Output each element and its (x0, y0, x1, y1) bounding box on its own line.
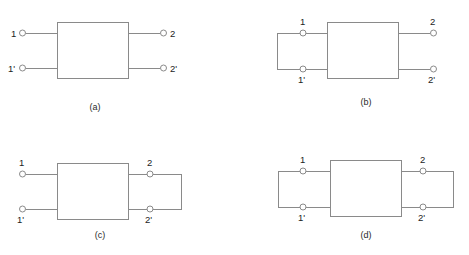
panel-d-label-2prime: 2' (418, 212, 425, 223)
panel-c: 1 1' 2 2' (c) (17, 157, 181, 240)
panel-d-network-box (331, 161, 402, 217)
panel-a-terminal-2prime (161, 65, 167, 71)
panel-d-label-2: 2 (420, 154, 425, 165)
panel-a: 1 1' 2 2' (a) (8, 23, 177, 113)
panel-d-terminal-2prime (420, 204, 426, 210)
panel-c-label-2: 2 (147, 157, 152, 168)
panel-d-terminal-1prime (300, 204, 306, 210)
panel-c-label-1prime: 1' (17, 214, 24, 225)
panel-b-terminal-1prime (300, 66, 306, 72)
panel-c-terminal-1 (20, 171, 26, 177)
panel-a-terminal-1prime (20, 65, 26, 71)
panel-d-terminal-1 (300, 168, 306, 174)
panel-a-label-1: 1 (11, 28, 16, 39)
panel-b-terminal-2prime (431, 66, 437, 72)
panel-d-label-1prime: 1' (298, 212, 305, 223)
panel-c-label-1: 1 (19, 157, 24, 168)
panel-a-label-1prime: 1' (8, 63, 15, 74)
panel-a-label-2: 2 (170, 28, 175, 39)
two-port-network-figure: 1 1' 2 2' (a) 1 1' (0, 0, 469, 255)
panel-a-label-2prime: 2' (170, 63, 177, 74)
panel-c-terminal-1prime (20, 206, 26, 212)
panel-c-network-box (58, 164, 129, 220)
panel-a-caption: (a) (90, 102, 101, 112)
panel-c-terminal-2prime (147, 206, 153, 212)
panel-d-caption: (d) (361, 230, 372, 240)
panel-d-right-short-bar (426, 171, 454, 207)
panel-a-network-box (58, 23, 129, 79)
figure-root: 1 1' 2 2' (a) 1 1' (0, 0, 469, 255)
panel-c-terminal-2 (147, 171, 153, 177)
panel-d-label-1: 1 (300, 154, 305, 165)
panel-d: 1 1' 2 2' (d) (279, 154, 454, 240)
panel-b: 1 1' 2 2' (b) (278, 16, 437, 107)
panel-b-label-1prime: 1' (298, 74, 305, 85)
panel-b-label-1: 1 (300, 16, 305, 27)
panel-c-right-short-bar (153, 174, 181, 209)
cropped-header-artifact (4, 0, 26, 5)
panel-d-terminal-2 (420, 168, 426, 174)
panel-b-network-box (328, 23, 399, 79)
panel-b-caption: (b) (361, 97, 372, 107)
panel-b-left-short-bar (278, 33, 307, 69)
panel-c-caption: (c) (95, 230, 106, 240)
panel-b-terminal-1 (300, 30, 306, 36)
panel-b-terminal-2 (431, 30, 437, 36)
panel-c-label-2prime: 2' (145, 214, 152, 225)
panel-d-left-short-bar (279, 171, 307, 207)
panel-a-terminal-2 (161, 30, 167, 36)
panel-a-terminal-1 (20, 30, 26, 36)
panel-b-label-2: 2 (430, 16, 435, 27)
panel-b-label-2prime: 2' (428, 74, 435, 85)
